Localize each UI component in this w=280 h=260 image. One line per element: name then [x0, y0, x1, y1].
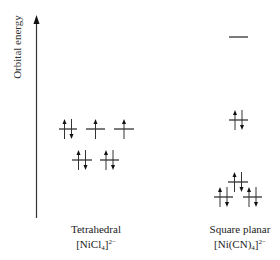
- caption-square-planar: Square planar [Ni(CN)4]2−: [210, 223, 271, 255]
- caption-tetrahedral: Tetrahedral [NiCl4]2−: [71, 223, 121, 255]
- formula-nicn4: [Ni(CN)4]2−: [210, 236, 271, 255]
- axis-arrowhead-icon: [34, 15, 40, 24]
- orbital-levels: [59, 37, 262, 207]
- geometry-label-square-planar: Square planar: [210, 223, 271, 235]
- arrowhead-down-icon: [240, 187, 244, 192]
- orbital-level: [214, 187, 233, 207]
- orbital-level: [72, 150, 92, 170]
- arrowhead-up-icon: [218, 187, 222, 192]
- orbital-level: [243, 187, 262, 207]
- formula-base: [Ni(CN): [214, 238, 251, 250]
- orbital-energy-diagram: [0, 0, 280, 260]
- orbital-level: [229, 110, 248, 130]
- formula-nicl4: [NiCl4]2−: [71, 236, 121, 255]
- formula-charge: 2−: [259, 238, 266, 246]
- formula-base: [NiCl: [76, 238, 101, 250]
- arrowhead-down-icon: [240, 125, 244, 130]
- arrowhead-down-icon: [70, 134, 74, 139]
- orbital-level: [114, 119, 134, 139]
- arrowhead-down-icon: [225, 202, 229, 207]
- axis-label-orbital-energy: Orbital energy: [11, 15, 23, 79]
- arrowhead-up-icon: [77, 150, 81, 155]
- orbital-set-square-planar: [214, 37, 262, 207]
- formula-charge: 2−: [108, 238, 115, 246]
- arrowhead-up-icon: [233, 110, 237, 115]
- arrowhead-down-icon: [84, 165, 88, 170]
- arrowhead-up-icon: [122, 119, 126, 124]
- orbital-level: [59, 119, 77, 139]
- arrowhead-up-icon: [247, 187, 251, 192]
- orbital-level: [86, 119, 105, 139]
- orbital-set-tetrahedral: [59, 119, 134, 170]
- geometry-label-tetrahedral: Tetrahedral: [71, 223, 121, 235]
- arrowhead-down-icon: [111, 165, 115, 170]
- arrowhead-up-icon: [233, 172, 237, 177]
- orbital-level: [228, 172, 248, 192]
- arrowhead-up-icon: [104, 150, 108, 155]
- arrowhead-down-icon: [254, 202, 258, 207]
- arrowhead-up-icon: [63, 119, 67, 124]
- energy-axis: [34, 15, 40, 218]
- arrowhead-up-icon: [94, 119, 98, 124]
- orbital-level: [100, 150, 119, 170]
